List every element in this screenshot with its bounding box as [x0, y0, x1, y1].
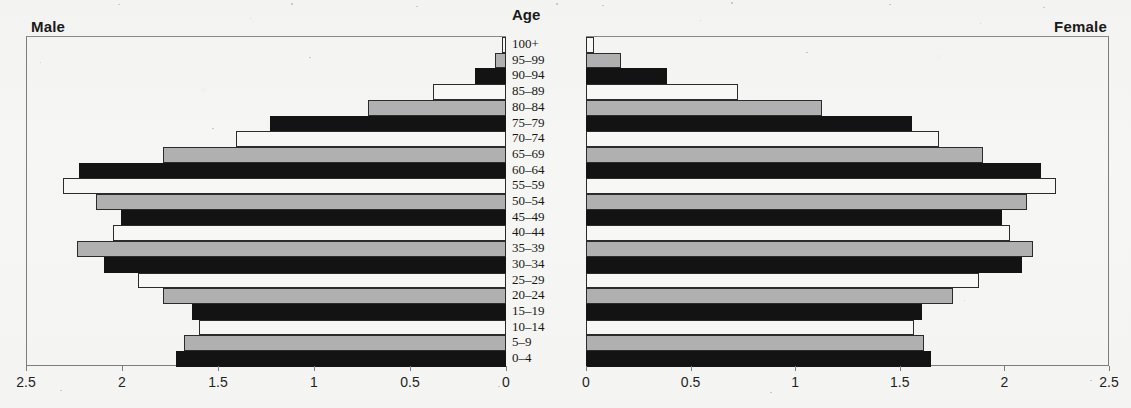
axis-tick-label: 0.5 [681, 374, 700, 390]
female-bar-95-99[interactable] [586, 53, 621, 69]
scan-speck [700, 20, 701, 21]
axis-tick [122, 366, 123, 371]
bar-row [586, 100, 1108, 116]
female-bar-35-39[interactable] [586, 241, 1033, 257]
bar-row [586, 273, 1108, 289]
age-label: 65–69 [512, 146, 582, 162]
bar-row [27, 273, 506, 289]
female-bar-65-69[interactable] [586, 147, 983, 163]
female-x-axis: 00.511.522.5 [586, 366, 1109, 400]
male-bar-80-84[interactable] [368, 100, 506, 116]
axis-tick [691, 366, 692, 371]
bar-row [27, 335, 506, 351]
bar-row [27, 116, 506, 132]
bar-row [27, 131, 506, 147]
bar-row [586, 335, 1108, 351]
female-bar-60-64[interactable] [586, 163, 1041, 179]
female-bar-55-59[interactable] [586, 178, 1056, 194]
male-bar-0-4[interactable] [176, 351, 506, 367]
bar-row [586, 53, 1108, 69]
male-bar-95-99[interactable] [495, 53, 506, 69]
axis-tick-label: 1 [310, 374, 318, 390]
male-bar-65-69[interactable] [163, 147, 506, 163]
female-bar-10-14[interactable] [586, 320, 914, 336]
female-bar-rows [586, 37, 1108, 365]
male-bar-45-49[interactable] [121, 210, 506, 226]
axis-tick [26, 366, 27, 371]
male-bar-55-59[interactable] [63, 178, 506, 194]
female-bar-15-19[interactable] [586, 304, 922, 320]
bar-row [586, 320, 1108, 336]
axis-tick-label: 1 [791, 374, 799, 390]
male-bar-85-89[interactable] [433, 84, 506, 100]
female-bar-45-49[interactable] [586, 210, 1002, 226]
bar-row [586, 225, 1108, 241]
male-bar-70-74[interactable] [236, 131, 506, 147]
bar-row [27, 84, 506, 100]
age-label: 35–39 [512, 240, 582, 256]
age-group-label-column: 100+95–9990–9485–8980–8475–7970–7465–696… [512, 36, 582, 366]
male-bar-35-39[interactable] [77, 241, 506, 257]
female-bar-100+[interactable] [586, 37, 594, 53]
axis-tick [795, 366, 796, 371]
axis-tick-label: 1.5 [208, 374, 227, 390]
male-bar-10-14[interactable] [199, 320, 506, 336]
bar-row [27, 320, 506, 336]
female-bar-30-34[interactable] [586, 257, 1022, 273]
bar-row [27, 241, 506, 257]
bar-row [27, 257, 506, 273]
age-label: 20–24 [512, 287, 582, 303]
female-bar-80-84[interactable] [586, 100, 822, 116]
bar-row [586, 147, 1108, 163]
male-plot-area [26, 36, 506, 366]
bar-row [27, 210, 506, 226]
male-bar-5-9[interactable] [184, 335, 506, 351]
axis-tick-label: 0 [582, 374, 590, 390]
female-bar-40-44[interactable] [586, 225, 1010, 241]
bar-row [27, 68, 506, 84]
axis-tick [410, 366, 411, 371]
bar-row [586, 116, 1108, 132]
bar-row [586, 178, 1108, 194]
bar-row [586, 163, 1108, 179]
female-bar-20-24[interactable] [586, 288, 953, 304]
female-bar-50-54[interactable] [586, 194, 1027, 210]
male-bar-50-54[interactable] [96, 194, 506, 210]
female-bar-70-74[interactable] [586, 131, 939, 147]
axis-tick-label: 0.5 [400, 374, 419, 390]
age-label: 55–59 [512, 177, 582, 193]
male-bar-100+[interactable] [502, 37, 506, 53]
scan-speck [1043, 7, 1045, 8]
axis-tick [900, 366, 901, 371]
female-bar-90-94[interactable] [586, 68, 667, 84]
male-bar-60-64[interactable] [79, 163, 506, 179]
scan-speck [250, 18, 251, 19]
male-bar-75-79[interactable] [270, 116, 506, 132]
scan-speck [889, 4, 891, 5]
bar-row [27, 53, 506, 69]
female-bar-85-89[interactable] [586, 84, 738, 100]
scan-speck [980, 23, 981, 24]
scan-speck [118, 4, 120, 5]
age-label: 40–44 [512, 224, 582, 240]
female-bar-25-29[interactable] [586, 273, 979, 289]
male-bar-20-24[interactable] [163, 288, 506, 304]
age-label: 75–79 [512, 115, 582, 131]
male-bar-90-94[interactable] [475, 68, 506, 84]
male-bar-25-29[interactable] [138, 273, 506, 289]
male-bar-30-34[interactable] [104, 257, 506, 273]
female-bar-5-9[interactable] [586, 335, 924, 351]
axis-tick-label: 2 [118, 374, 126, 390]
age-label: 60–64 [512, 162, 582, 178]
female-panel-title: Female [1054, 18, 1107, 35]
female-bar-75-79[interactable] [586, 116, 912, 132]
bar-row [586, 304, 1108, 320]
male-panel-title: Male [31, 18, 65, 35]
female-bar-0-4[interactable] [586, 351, 931, 367]
age-label: 0–4 [512, 350, 582, 366]
age-column-header: Age [512, 6, 540, 23]
male-bar-40-44[interactable] [113, 225, 506, 241]
scan-speck [291, 3, 293, 5]
age-label: 95–99 [512, 52, 582, 68]
male-bar-15-19[interactable] [192, 304, 506, 320]
